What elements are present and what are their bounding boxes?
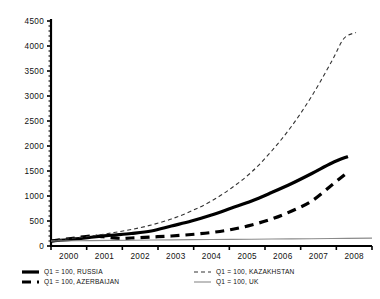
series-line-2 bbox=[51, 33, 356, 242]
y-tick-label: 3500 bbox=[25, 67, 45, 76]
legend-label-0: Q1 = 100, RUSSIA bbox=[44, 268, 103, 276]
x-tick-label: 2006 bbox=[273, 252, 293, 261]
legend-label-3: Q1 = 100, UK bbox=[216, 278, 259, 286]
y-tick-label: 3000 bbox=[25, 92, 45, 101]
x-tick-label: 2001 bbox=[95, 252, 115, 261]
y-tick-label: 2500 bbox=[25, 117, 45, 126]
data-series-group bbox=[51, 33, 372, 242]
x-tick-label: 2005 bbox=[237, 252, 257, 261]
y-tick-label: 4000 bbox=[25, 42, 45, 51]
x-tick-label: 2002 bbox=[130, 252, 150, 261]
chart-canvas: 050010001500200025003000350040004500 200… bbox=[0, 0, 380, 299]
x-tick-label: 2007 bbox=[309, 252, 329, 261]
x-axis-labels: 200020012002200320042005200620072008 bbox=[59, 252, 364, 261]
y-tick-label: 0 bbox=[39, 242, 44, 251]
y-tick-label: 2000 bbox=[25, 142, 45, 151]
legend-label-1: Q1 = 100, AZERBAIJAN bbox=[44, 278, 119, 286]
y-tick-label: 4500 bbox=[25, 17, 45, 26]
y-axis-labels: 050010001500200025003000350040004500 bbox=[25, 17, 45, 251]
series-line-1 bbox=[51, 172, 348, 241]
series-line-0 bbox=[51, 157, 348, 242]
x-tick-label: 2003 bbox=[166, 252, 186, 261]
line-chart: 050010001500200025003000350040004500 200… bbox=[0, 0, 380, 299]
x-tick-label: 2004 bbox=[202, 252, 222, 261]
legend-label-2: Q1 = 100, KAZAKHSTAN bbox=[216, 268, 294, 276]
y-tick-label: 1000 bbox=[25, 192, 45, 201]
y-tick-label: 1500 bbox=[25, 167, 45, 176]
y-tick-label: 500 bbox=[29, 217, 44, 226]
chart-legend: Q1 = 100, RUSSIAQ1 = 100, AZERBAIJANQ1 =… bbox=[22, 268, 294, 286]
series-line-3 bbox=[51, 238, 372, 241]
x-tick-label: 2000 bbox=[59, 252, 79, 261]
x-tick-label: 2008 bbox=[344, 252, 364, 261]
